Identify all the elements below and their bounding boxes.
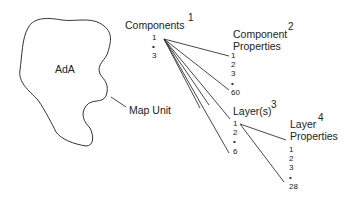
layers-list: 1 2 • 6 (233, 119, 237, 156)
component-properties-title: Component Properties (233, 28, 287, 52)
map-unit-polygon (20, 18, 111, 146)
layers-item: 6 (233, 147, 237, 156)
layers-item: • (233, 137, 236, 146)
components-title: Components (125, 20, 185, 31)
component-property-item: 2 (231, 60, 235, 69)
layer-property-item: • (289, 173, 292, 182)
layer-properties-title: Layer Properties (290, 118, 338, 142)
layer-property-item: 3 (289, 163, 293, 172)
components-item: 3 (152, 51, 156, 60)
map-unit-leader (111, 97, 126, 107)
component-links (164, 39, 230, 153)
layer-property-item: 28 (289, 182, 298, 191)
component-property-item: 60 (231, 88, 240, 97)
layers-number: 3 (271, 100, 277, 110)
layer-property-item: 2 (289, 154, 293, 163)
layer-properties-list: 1 2 3 • 28 (289, 145, 298, 191)
component-property-item: 3 (231, 69, 235, 78)
layer-properties-number: 4 (318, 113, 324, 123)
components-item: • (152, 42, 155, 51)
map-unit-symbol: AdA (55, 64, 75, 75)
layers-title: Layer(s) (233, 106, 272, 117)
map-unit-label: Map Unit (129, 105, 171, 116)
layers-item: 2 (233, 128, 237, 137)
component-property-item: 1 (231, 51, 235, 60)
component-properties-list: 1 2 3 • 60 (231, 51, 240, 97)
components-item: 1 (152, 33, 156, 42)
component-properties-number: 2 (288, 22, 294, 32)
layer-property-item: 1 (289, 145, 293, 154)
components-list: 1 • 3 (152, 33, 156, 61)
components-number: 1 (188, 13, 194, 23)
layers-item: 1 (233, 119, 237, 128)
layer-links (240, 124, 286, 182)
component-property-item: • (231, 79, 234, 88)
